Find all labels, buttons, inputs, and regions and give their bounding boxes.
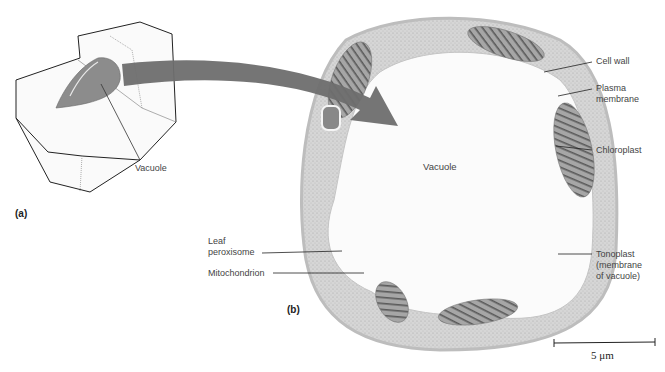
starch-granule-organelle bbox=[322, 106, 340, 130]
label-vacuole-center: Vacuole bbox=[423, 161, 457, 172]
label-mitochondrion: Mitochondrion bbox=[208, 268, 265, 279]
label-tonoplast: Tonoplast (membrane of vacuole) bbox=[596, 249, 642, 282]
label-cell-wall: Cell wall bbox=[596, 56, 630, 67]
label-vacuole-a: Vacuole bbox=[135, 163, 167, 174]
label-plasma-membrane: Plasma membrane bbox=[596, 83, 639, 105]
label-chloroplast: Chloroplast bbox=[596, 145, 642, 156]
scale-bar-label: 5 μm bbox=[591, 349, 614, 361]
scale-bar bbox=[554, 338, 655, 347]
diagram-canvas bbox=[0, 0, 665, 372]
panel-label-a: (a) bbox=[15, 208, 27, 219]
label-leaf-peroxisome: Leaf peroxisome bbox=[208, 236, 255, 258]
panel-label-b: (b) bbox=[287, 304, 300, 315]
central-vacuole-region bbox=[328, 52, 593, 318]
cell-micrograph bbox=[302, 18, 617, 350]
